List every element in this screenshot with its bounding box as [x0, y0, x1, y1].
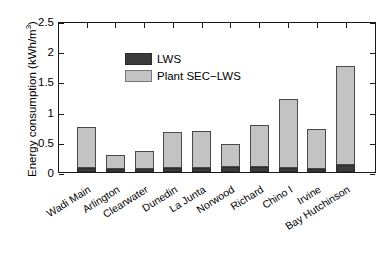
bar-segment-lws [307, 169, 326, 172]
y-tick-label-5: 2.5 [10, 16, 54, 28]
bar-segment-plant-sec [106, 155, 125, 169]
bar-segment-plant-sec [336, 66, 355, 164]
bar-segment-plant-sec [163, 132, 182, 168]
bar-segment-plant-sec [192, 131, 211, 168]
bar-segment-plant-sec [135, 151, 154, 169]
chart-legend: LWS Plant SEC−LWS [125, 51, 275, 85]
bar-bay-hutchinson [336, 66, 355, 172]
bar-segment-lws [77, 168, 96, 172]
y-tick-label-2: 1 [10, 107, 54, 119]
bar-dunedin [163, 132, 182, 172]
bar-segment-lws [250, 167, 269, 172]
x-tick-top-0 [87, 23, 88, 28]
legend-item-lws: LWS [125, 51, 275, 66]
bar-irvine [307, 129, 326, 172]
bar-arlington [106, 155, 125, 172]
bar-chino-i [279, 99, 298, 172]
x-tick-top-9 [346, 23, 347, 28]
legend-swatch-lws-icon [125, 53, 152, 65]
bar-la-junta [192, 131, 211, 172]
x-tick-top-2 [144, 23, 145, 28]
x-tick-top-6 [259, 23, 260, 28]
y-tick-4 [59, 53, 64, 54]
bar-segment-plant-sec [250, 125, 269, 167]
y-tick-5 [59, 23, 64, 24]
bar-norwood [221, 144, 240, 172]
bar-segment-plant-sec [279, 99, 298, 168]
y-tick-right-3 [370, 83, 375, 84]
y-tick-right-1 [370, 144, 375, 145]
bar-segment-lws [106, 169, 125, 172]
bar-segment-plant-sec [307, 129, 326, 169]
y-tick-label-0: 0 [10, 167, 54, 179]
bar-segment-lws [279, 168, 298, 172]
x-tick-label-6: Richard [228, 183, 265, 212]
bar-segment-lws [336, 165, 355, 172]
x-tick-top-3 [173, 23, 174, 28]
y-tick-right-4 [370, 53, 375, 54]
x-tick-top-7 [288, 23, 289, 28]
x-tick-top-4 [202, 23, 203, 28]
legend-label-plant-sec: Plant SEC−LWS [157, 70, 241, 82]
bar-richard [250, 125, 269, 172]
bar-clearwater [135, 151, 154, 172]
legend-swatch-plant-sec-icon [125, 70, 152, 82]
legend-item-plant-sec: Plant SEC−LWS [125, 68, 275, 83]
y-axis-title: Energy consumption (kWh/m3) [26, 4, 38, 194]
y-tick-0 [59, 174, 64, 175]
y-tick-right-0 [370, 174, 375, 175]
y-tick-3 [59, 83, 64, 84]
bar-segment-plant-sec [77, 127, 96, 169]
bar-wadi-main [77, 127, 96, 172]
bar-segment-lws [135, 169, 154, 172]
x-tick-top-5 [230, 23, 231, 28]
x-tick-top-1 [115, 23, 116, 28]
y-tick-1 [59, 144, 64, 145]
legend-label-lws: LWS [157, 53, 181, 65]
y-tick-label-1: 0.5 [10, 137, 54, 149]
y-tick-2 [59, 114, 64, 115]
x-tick-label-7: Chino I [260, 183, 295, 211]
y-tick-right-5 [370, 23, 375, 24]
y-tick-label-4: 2 [10, 46, 54, 58]
bar-segment-lws [163, 168, 182, 172]
x-tick-top-8 [317, 23, 318, 28]
plot-area: LWS Plant SEC−LWS [58, 22, 376, 173]
bar-segment-plant-sec [221, 144, 240, 166]
bar-segment-lws [192, 168, 211, 172]
y-tick-right-2 [370, 114, 375, 115]
y-tick-label-3: 1.5 [10, 76, 54, 88]
bar-chart-figure: Energy consumption (kWh/m3) 00.511.522.5… [0, 0, 388, 257]
bar-segment-lws [221, 167, 240, 172]
